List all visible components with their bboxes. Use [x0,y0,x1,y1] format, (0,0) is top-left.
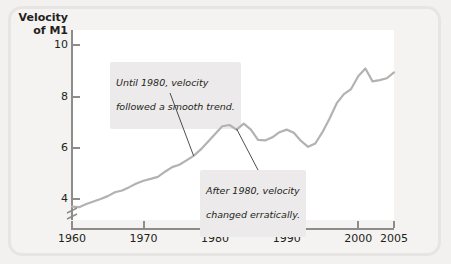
annotation-line-2: followed a smooth trend. [116,101,235,113]
y-tick-label-4: 4 [28,193,68,204]
x-tick-2005 [393,221,395,228]
x-tick-1970 [143,221,145,228]
y-tick-8 [73,96,80,98]
y-tick-label-wrap: 6 [20,142,68,154]
y-tick-6 [73,147,80,149]
chart-figure: Velocity of M1 46810 1960197019801990200… [0,0,451,264]
chart-title: Velocity of M1 [6,12,68,37]
chart-title-line-1: Velocity [6,12,68,25]
annotation-callout-erratic: After 1980, velocity changed erratically… [200,170,306,237]
y-tick-10 [73,44,80,46]
x-tick-label-2005: 2005 [364,233,424,245]
y-tick-label-6: 6 [28,142,68,153]
annotation-line-1: After 1980, velocity [206,185,300,197]
chart-title-line-2: of M1 [6,25,68,38]
y-tick-4 [73,198,80,200]
y-tick-label-8: 8 [28,91,68,102]
y-tick-label-wrap: 8 [20,91,68,103]
y-axis-line [71,30,73,220]
x-tick-2000 [357,221,359,228]
y-tick-label-wrap: 4 [20,193,68,205]
x-tick-1960 [71,221,73,228]
y-tick-label-wrap: 10 [20,39,68,51]
y-tick-label-10: 10 [28,39,68,50]
annotation-line-1: Until 1980, velocity [116,77,235,89]
annotation-line-2: changed erratically. [206,209,300,221]
x-tick-label-1960: 1960 [42,233,102,245]
x-tick-label-1970: 1970 [114,233,174,245]
annotation-callout-smooth-trend: Until 1980, velocity followed a smooth t… [110,62,241,129]
